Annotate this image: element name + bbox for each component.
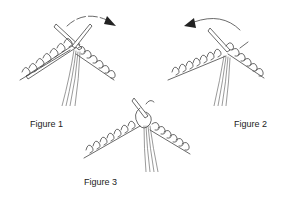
figure-3-illustration [80,94,205,172]
figure-1-illustration [12,6,122,106]
figure-1-label: Figure 1 [30,119,63,129]
figure-3-label: Figure 3 [84,177,117,187]
figure-2-label: Figure 2 [234,119,267,129]
knitting-needles-figure-1-icon [12,6,122,106]
knitting-needles-figure-3-icon [80,94,205,172]
figure-2-illustration [152,6,272,106]
knitting-needles-figure-2-icon [152,6,272,106]
